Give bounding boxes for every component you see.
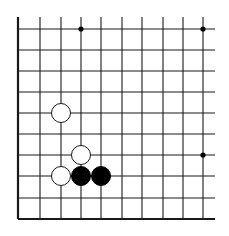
go-board: [0, 0, 229, 236]
black-stone: [92, 167, 111, 186]
go-board-diagram: [0, 0, 229, 236]
star-point-icon: [78, 26, 83, 31]
white-stone: [72, 146, 91, 165]
black-stone: [72, 167, 91, 186]
white-stone: [52, 104, 71, 123]
white-stone: [52, 167, 71, 186]
grid-lines: [18, 17, 215, 219]
star-point-icon: [200, 152, 205, 157]
star-point-icon: [200, 26, 205, 31]
